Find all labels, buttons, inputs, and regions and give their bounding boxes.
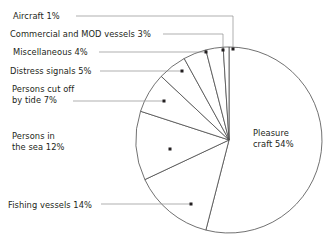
pie-label-pleasure-craft: Pleasurecraft 54%	[253, 128, 294, 149]
leader-dot-commercial-and-mod-vessels	[222, 49, 225, 52]
leader-dot-fishing-vessels	[190, 203, 193, 206]
leader-dot-persons-cut-off-by-tide	[163, 100, 166, 103]
pie-chart-canvas: Pleasurecraft 54%Fishing vessels 14%Pers…	[0, 0, 335, 248]
pie-label-commercial-and-mod-vessels: Commercial and MOD vessels 3%	[10, 29, 151, 39]
pie-label-distress-signals: Distress signals 5%	[10, 66, 92, 76]
pie-chart: Pleasurecraft 54%Fishing vessels 14%Pers…	[0, 0, 335, 248]
leader-dot-distress-signals	[181, 70, 184, 73]
pie-label-aircraft: Aircraft 1%	[13, 11, 60, 21]
pie-label-persons-in-the-sea: Persons inthe sea 12%	[12, 131, 64, 152]
leader-dot-persons-in-the-sea	[169, 148, 172, 151]
pie-label-persons-cut-off-by-tide: Persons cut offby tide 7%	[12, 84, 75, 105]
leader-line-commercial-and-mod-vessels	[163, 34, 223, 49]
leader-dot-miscellaneous	[205, 51, 208, 54]
pie-label-fishing-vessels: Fishing vessels 14%	[8, 200, 92, 210]
pie-slices-group	[136, 47, 322, 233]
leader-dot-aircraft	[232, 48, 235, 51]
pie-label-miscellaneous: Miscellaneous 4%	[13, 47, 88, 57]
